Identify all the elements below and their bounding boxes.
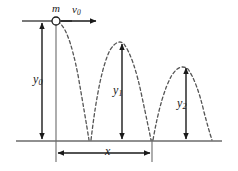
mass-circle-marker <box>52 17 60 25</box>
height-bounce-1-label: y1 <box>113 84 122 96</box>
mass-label: m <box>52 3 60 14</box>
initial-velocity-label: v0 <box>72 4 81 15</box>
trajectory-initial-fall <box>57 22 89 140</box>
horizontal-distance-label: x <box>105 145 110 157</box>
physics-diagram-figure: m v0 y0 y1 y2 x <box>0 0 238 171</box>
height-initial-label: y0 <box>33 73 42 85</box>
height-bounce-2-label: y2 <box>177 97 186 109</box>
